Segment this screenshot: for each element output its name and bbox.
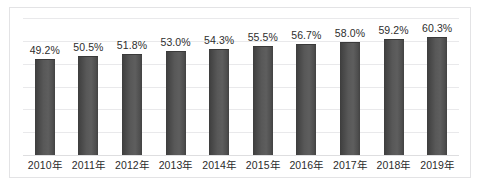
bar-slot: 51.8%	[110, 18, 154, 155]
bar[interactable]	[166, 51, 186, 155]
category-tick-label: 2013年	[154, 157, 198, 175]
axis-baseline	[23, 155, 459, 156]
bar[interactable]	[78, 56, 98, 155]
category-tick-label: 2017年	[328, 157, 372, 175]
bar-slot: 54.3%	[197, 18, 241, 155]
bar[interactable]	[35, 59, 55, 155]
category-tick-label: 2015年	[241, 157, 285, 175]
category-tick-label: 2011年	[67, 157, 111, 175]
chart-frame: 49.2%50.5%51.8%53.0%54.3%55.5%56.7%58.0%…	[9, 7, 471, 178]
category-axis: 2010年2011年2012年2013年2014年2015年2016年2017年…	[23, 157, 459, 175]
bar-slot: 56.7%	[285, 18, 329, 155]
bar-slot: 58.0%	[328, 18, 372, 155]
bar-value-label: 53.0%	[160, 36, 190, 48]
bar-slot: 53.0%	[154, 18, 198, 155]
bars-layer: 49.2%50.5%51.8%53.0%54.3%55.5%56.7%58.0%…	[23, 18, 459, 155]
category-tick-label: 2016年	[285, 157, 329, 175]
bar-slot: 49.2%	[23, 18, 67, 155]
category-tick-label: 2012年	[110, 157, 154, 175]
bar-slot: 60.3%	[415, 18, 459, 155]
bar-slot: 59.2%	[372, 18, 416, 155]
bar-value-label: 50.5%	[73, 41, 103, 53]
bar-value-label: 49.2%	[30, 44, 60, 56]
bar-value-label: 60.3%	[422, 22, 452, 34]
bar[interactable]	[122, 54, 142, 155]
category-tick-label: 2019年	[415, 157, 459, 175]
bar-value-label: 59.2%	[378, 24, 408, 36]
bar-value-label: 58.0%	[335, 27, 365, 39]
bar-value-label: 54.3%	[204, 34, 234, 46]
bar-value-label: 56.7%	[291, 29, 321, 41]
bar-slot: 50.5%	[67, 18, 111, 155]
bar[interactable]	[427, 37, 447, 155]
category-tick-label: 2014年	[197, 157, 241, 175]
bar-value-label: 55.5%	[248, 31, 278, 43]
category-tick-label: 2018年	[372, 157, 416, 175]
category-tick-label: 2010年	[23, 157, 67, 175]
bar[interactable]	[209, 49, 229, 155]
bar[interactable]	[296, 44, 316, 155]
bar-slot: 55.5%	[241, 18, 285, 155]
bar[interactable]	[384, 39, 404, 155]
bar-value-label: 51.8%	[117, 39, 147, 51]
bar[interactable]	[253, 46, 273, 155]
bar[interactable]	[340, 42, 360, 156]
